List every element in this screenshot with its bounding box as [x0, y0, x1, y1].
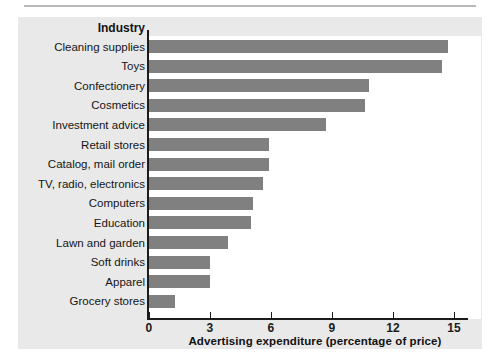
x-axis-tick: [454, 312, 455, 318]
category-label: Lawn and garden: [10, 237, 145, 249]
x-axis-title: Advertising expenditure (percentage of p…: [149, 335, 481, 347]
bar: [149, 60, 442, 73]
x-axis-line: [147, 318, 468, 320]
bar: [149, 295, 175, 308]
bar: [149, 256, 210, 269]
category-label: Computers: [10, 197, 145, 209]
x-axis-tick-label: 3: [190, 321, 230, 335]
x-axis-tick: [393, 312, 394, 318]
category-label: Cosmetics: [10, 99, 145, 111]
x-axis-tick: [149, 312, 150, 318]
y-axis-line: [147, 30, 149, 319]
x-axis-tick-label: 9: [312, 321, 352, 335]
category-label: Grocery stores: [10, 295, 145, 307]
bar: [149, 99, 365, 112]
bar-chart-figure: Industry Cleaning suppliesToysConfection…: [0, 0, 499, 363]
bar: [149, 197, 253, 210]
category-label: Investment advice: [10, 119, 145, 131]
category-label: Education: [10, 217, 145, 229]
bar: [149, 216, 251, 229]
x-axis-tick-label: 12: [373, 321, 413, 335]
category-label: Apparel: [10, 276, 145, 288]
bar: [149, 118, 326, 131]
bar: [149, 40, 448, 53]
x-axis-tick: [210, 312, 211, 318]
category-label: Catalog, mail order: [10, 158, 145, 170]
bar: [149, 158, 269, 171]
bar: [149, 79, 369, 92]
top-divider: [24, 5, 476, 7]
bar: [149, 236, 228, 249]
category-label: Toys: [10, 60, 145, 72]
x-axis-tick: [332, 312, 333, 318]
x-axis-tick-label: 15: [434, 321, 474, 335]
bar: [149, 138, 269, 151]
x-axis-tick: [271, 312, 272, 318]
category-label: Cleaning supplies: [10, 41, 145, 53]
category-label: Soft drinks: [10, 256, 145, 268]
category-label: Retail stores: [10, 139, 145, 151]
bar: [149, 177, 263, 190]
category-label: Confectionery: [10, 80, 145, 92]
category-label: TV, radio, electronics: [10, 178, 145, 190]
bar: [149, 275, 210, 288]
x-axis-tick-label: 6: [251, 321, 291, 335]
x-axis-tick-label: 0: [129, 321, 169, 335]
y-axis-header: Industry: [20, 21, 145, 35]
